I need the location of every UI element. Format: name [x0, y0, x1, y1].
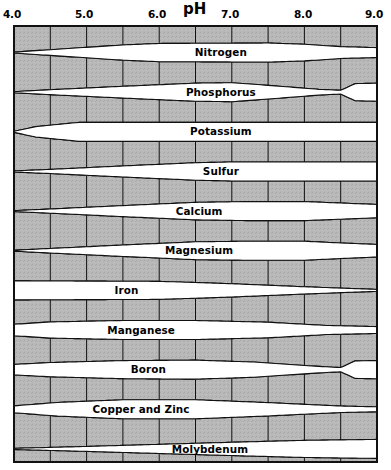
band-label: Potassium	[190, 125, 252, 137]
band-label: Iron	[115, 284, 139, 296]
band-label: Molybdenum	[172, 443, 248, 455]
band-label: Copper and Zinc	[93, 403, 190, 415]
plot-area: NitrogenPhosphorusPotassiumSulfurCalcium…	[0, 0, 391, 470]
ph-nutrient-availability-chart: pH 4.0 5.0 6.0 7.0 8.0 9.0 NitrogenPhosp…	[0, 0, 391, 470]
band-label: Sulfur	[203, 165, 240, 177]
band-label: Manganese	[107, 324, 175, 336]
band-label: Nitrogen	[195, 46, 247, 58]
band-label: Phosphorus	[186, 86, 256, 98]
band-label: Calcium	[176, 205, 223, 217]
band-label: Magnesium	[165, 244, 233, 256]
band-label: Boron	[131, 363, 166, 375]
